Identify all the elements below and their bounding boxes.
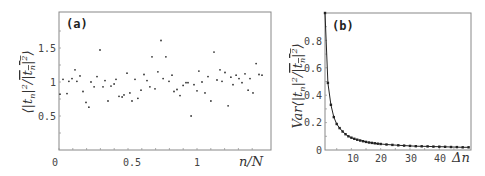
- data-point: [456, 146, 458, 148]
- data-point: [187, 82, 189, 84]
- panel-b: (b) 10 20 30 40 0 0.2 0.4 0.6 0.8 Δn Var…: [290, 12, 471, 165]
- data-point: [341, 130, 343, 132]
- data-point: [131, 100, 133, 102]
- data-point: [93, 86, 95, 88]
- panel-a-xtick-2: 1: [194, 157, 200, 168]
- data-point: [173, 91, 175, 93]
- data-point: [356, 139, 358, 141]
- data-point: [151, 56, 153, 58]
- data-point: [391, 144, 393, 146]
- panel-a-xtick-0: 0: [52, 157, 58, 168]
- data-point: [261, 74, 263, 76]
- panel-a-ytick-0: 0.5: [38, 111, 56, 122]
- data-point: [74, 69, 76, 71]
- data-point: [258, 74, 260, 76]
- data-point: [333, 116, 335, 118]
- data-point: [68, 80, 70, 82]
- data-point: [171, 74, 173, 76]
- data-point: [143, 74, 145, 76]
- data-point: [238, 78, 240, 80]
- data-point: [350, 137, 352, 139]
- panel-b-xtick-0: 10: [347, 153, 359, 164]
- data-point: [324, 12, 326, 14]
- data-point: [247, 89, 249, 91]
- data-point: [224, 72, 226, 74]
- panel-b-ytick-0: 0: [316, 145, 322, 156]
- data-point: [227, 105, 229, 107]
- data-point: [235, 74, 237, 76]
- panel-a-axis-ticks: [59, 31, 252, 150]
- data-point: [140, 89, 142, 91]
- panel-a-ytick-1: 1: [50, 77, 56, 88]
- data-point: [216, 79, 218, 81]
- data-point: [232, 84, 234, 86]
- data-point: [196, 90, 198, 92]
- data-point: [336, 123, 338, 125]
- panel-b-ytick-1: 0.2: [304, 117, 322, 128]
- data-point: [249, 78, 251, 80]
- data-point: [347, 135, 349, 137]
- data-point: [123, 94, 125, 96]
- data-point: [241, 82, 243, 84]
- data-point: [129, 92, 131, 94]
- figure: (a) 0 0.5 1 0.5 1 1.5 n/N ⟨|tn|2/|tn|2⟩ …: [0, 0, 485, 176]
- data-point: [365, 141, 367, 143]
- data-point: [62, 78, 64, 80]
- data-point: [71, 78, 73, 80]
- svg-text:⟨|tn|2/|tn|2⟩: ⟨|tn|2/|tn|2⟩: [20, 50, 37, 113]
- data-point: [96, 76, 98, 78]
- panel-a-xlabel: n/N: [239, 154, 264, 169]
- panel-a-frame: [59, 12, 271, 150]
- panel-a-xtick-1: 0.5: [123, 157, 141, 168]
- data-point: [409, 145, 411, 147]
- data-point: [121, 96, 123, 98]
- data-point: [146, 80, 148, 82]
- data-point: [213, 51, 215, 53]
- panel-b-xtick-1: 20: [375, 153, 387, 164]
- data-point: [244, 73, 246, 75]
- panel-b-ytick-3: 0.6: [304, 63, 322, 74]
- data-point: [403, 144, 405, 146]
- data-point: [374, 142, 376, 144]
- data-point: [118, 95, 120, 97]
- data-point: [432, 145, 434, 147]
- data-point: [82, 91, 84, 93]
- data-point: [219, 69, 221, 71]
- data-point: [444, 146, 446, 148]
- data-point: [179, 95, 181, 97]
- data-point: [201, 81, 203, 83]
- data-point: [255, 63, 257, 65]
- data-point: [338, 127, 340, 129]
- data-point: [190, 115, 192, 117]
- svg-text:Var⟨|tn|2/|tn|2⟩: Var⟨|tn|2/|tn|2⟩: [290, 43, 307, 128]
- data-point: [59, 93, 61, 95]
- data-point: [110, 85, 112, 87]
- data-point: [344, 133, 346, 135]
- data-point: [327, 82, 329, 84]
- data-point: [371, 142, 373, 144]
- panel-b-axis-ticks: [325, 27, 454, 150]
- data-point: [467, 146, 469, 148]
- data-point: [368, 141, 370, 143]
- panel-b-xlabel: Δn: [451, 150, 470, 165]
- data-point: [185, 82, 187, 84]
- data-point: [252, 92, 254, 94]
- data-point: [107, 100, 109, 102]
- panel-b-frame: [325, 13, 471, 150]
- panel-a-label: (a): [66, 17, 88, 31]
- panel-b-ylabel: Var⟨|tn|2/|tn|2⟩: [290, 43, 307, 128]
- data-point: [99, 49, 101, 51]
- data-point: [330, 104, 332, 106]
- data-point: [76, 80, 78, 82]
- data-point: [162, 78, 164, 80]
- data-point: [353, 138, 355, 140]
- panel-a-ylabel: ⟨|tn|2/|tn|2⟩: [20, 50, 37, 113]
- data-point: [160, 40, 162, 42]
- data-point: [359, 139, 361, 141]
- data-point: [193, 84, 195, 86]
- data-point: [113, 83, 115, 85]
- panel-b-ytick-4: 0.8: [304, 36, 322, 47]
- data-point: [421, 145, 423, 147]
- data-point: [154, 88, 156, 90]
- data-point: [462, 146, 464, 148]
